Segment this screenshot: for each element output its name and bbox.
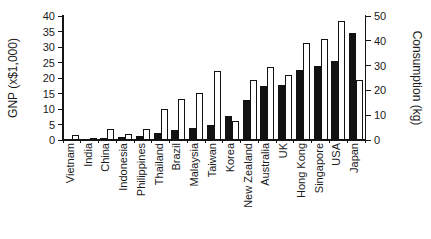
right-tick-10 (366, 115, 371, 116)
x-label-new-zealand: New Zealand (242, 143, 256, 213)
bar-gnp-indonesia (118, 137, 125, 140)
bar-gnp-singapore (314, 66, 321, 140)
bar-consumption-china (107, 129, 114, 140)
right-tick-label-10: 10 (374, 109, 398, 121)
bar-gnp-india (83, 139, 90, 140)
bar-consumption-philippines (143, 129, 150, 140)
bar-gnp-japan (349, 33, 356, 140)
left-tick-label-30: 30 (31, 41, 55, 53)
right-axis-title: Consumption (kg) (410, 16, 424, 140)
bar-consumption-thailand (161, 109, 168, 140)
left-tick-label-20: 20 (31, 72, 55, 84)
left-tick-label-15: 15 (31, 88, 55, 100)
left-tick-label-40: 40 (31, 10, 55, 22)
bar-consumption-usa (338, 21, 345, 140)
dual-axis-bar-chart: GNP (x$1,000) Consumption (kg) 051015202… (0, 0, 431, 239)
bar-consumption-uk (285, 75, 292, 140)
right-tick-30 (366, 65, 371, 66)
bar-gnp-thailand (154, 133, 161, 140)
bar-gnp-korea (225, 116, 232, 140)
right-tick-label-40: 40 (374, 35, 398, 47)
bar-consumption-india (90, 138, 97, 140)
bar-gnp-usa (331, 61, 338, 140)
right-tick-label-50: 50 (374, 10, 398, 22)
bar-consumption-australia (267, 67, 274, 140)
bar-gnp-taiwan (207, 125, 214, 140)
left-tick-label-0: 0 (31, 134, 55, 146)
right-tick-label-20: 20 (374, 84, 398, 96)
bar-gnp-new-zealand (243, 100, 250, 140)
x-label-usa: USA (330, 143, 344, 213)
x-label-philippines: Philippines (135, 143, 149, 213)
right-axis-line (365, 15, 366, 141)
x-label-india: India (82, 143, 96, 213)
right-tick-0 (366, 140, 371, 141)
bar-gnp-china (100, 138, 107, 140)
x-tick-10 (240, 140, 241, 143)
bar-consumption-taiwan (214, 71, 221, 140)
x-label-taiwan: Taiwan (206, 143, 220, 213)
left-axis-title: GNP (x$1,000) (6, 16, 20, 140)
x-label-indonesia: Indonesia (117, 143, 131, 213)
x-label-uk: UK (277, 143, 291, 213)
x-label-hong-kong: Hong Kong (295, 143, 309, 213)
x-label-thailand: Thailand (153, 143, 167, 213)
x-label-singapore: Singapore (313, 143, 327, 213)
left-tick-label-5: 5 (31, 119, 55, 131)
bar-consumption-korea (232, 121, 239, 140)
bar-consumption-indonesia (125, 134, 132, 140)
bar-consumption-malaysia (196, 93, 203, 140)
plot-area (63, 16, 365, 140)
bar-consumption-hong-kong (303, 43, 310, 140)
right-tick-label-30: 30 (374, 60, 398, 72)
bar-consumption-japan (356, 80, 363, 140)
left-tick-label-25: 25 (31, 57, 55, 69)
right-tick-label-0: 0 (374, 134, 398, 146)
bar-gnp-vietnam (65, 139, 72, 140)
x-label-korea: Korea (224, 143, 238, 213)
x-label-malaysia: Malaysia (188, 143, 202, 213)
bar-gnp-malaysia (189, 128, 196, 140)
bar-consumption-vietnam (72, 135, 79, 140)
bar-consumption-brazil (178, 99, 185, 140)
x-label-australia: Australia (259, 143, 273, 213)
right-tick-20 (366, 90, 371, 91)
left-tick-label-35: 35 (31, 26, 55, 38)
x-label-japan: Japan (348, 143, 362, 213)
x-label-china: China (99, 143, 113, 213)
bar-consumption-singapore (321, 39, 328, 140)
x-label-brazil: Brazil (170, 143, 184, 213)
right-tick-40 (366, 40, 371, 41)
bar-consumption-new-zealand (250, 80, 257, 140)
bar-gnp-uk (278, 85, 285, 140)
x-tick-17 (365, 140, 366, 143)
bar-gnp-philippines (136, 136, 143, 140)
x-label-vietnam: Vietnam (64, 143, 78, 213)
left-tick-label-10: 10 (31, 103, 55, 115)
bar-gnp-hong-kong (296, 70, 303, 140)
bar-gnp-australia (260, 86, 267, 140)
right-tick-50 (366, 16, 371, 17)
bar-gnp-brazil (171, 130, 178, 140)
